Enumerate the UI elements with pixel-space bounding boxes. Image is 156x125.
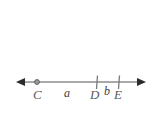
number-line-svg: C D E a b [0, 0, 156, 125]
point-label-e: E [113, 87, 122, 102]
segment-label-a: a [64, 86, 70, 100]
left-arrow-icon [16, 78, 25, 86]
point-label-d: D [89, 87, 100, 102]
point-marker-c [35, 80, 40, 85]
point-label-c: C [33, 87, 42, 102]
segment-label-b: b [104, 84, 110, 98]
number-line-figure: C D E a b [0, 0, 156, 125]
right-arrow-icon [137, 78, 146, 86]
